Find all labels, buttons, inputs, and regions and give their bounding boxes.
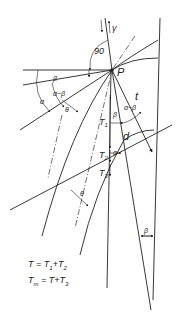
vertical-drop-line [107, 70, 111, 288]
label-alpha: α [40, 98, 45, 105]
right-boundary-line [153, 18, 160, 300]
label-beta-top: β [52, 75, 57, 83]
formula-tm: Tm = T+T3 [28, 274, 68, 290]
lower-oblique-line [10, 125, 172, 210]
label-alpha-minus-beta-left: α−β [53, 90, 65, 98]
formula-block: T = T1+T2 Tm = T+T3 [28, 258, 68, 290]
label-90: 90 [94, 46, 104, 56]
down-arrow [101, 20, 102, 32]
formula-t: T = T1+T2 [28, 258, 68, 274]
alpha-minus-beta-mid-arc [123, 112, 141, 123]
label-beta-mid: β [112, 111, 117, 119]
point-p [110, 68, 114, 72]
label-gamma: γ [112, 23, 117, 33]
t-line [112, 70, 152, 152]
label-theta-upper: θ [65, 106, 69, 113]
label-t2: T2 [99, 150, 109, 161]
normal-line [105, 18, 112, 70]
label-t1: T1 [99, 117, 108, 128]
label-t: t [135, 90, 139, 102]
label-d: d [123, 130, 130, 142]
label-alpha-minus-beta-mid: α−β [124, 104, 136, 112]
label-p: P [117, 66, 125, 78]
label-t3: T3 [99, 168, 109, 179]
label-beta-bottom: β [143, 227, 148, 235]
dashdot-left [48, 115, 62, 178]
dashdot-axis-lower [75, 70, 112, 228]
label-theta-lower: θ [80, 190, 84, 197]
up-arrow [109, 21, 110, 33]
dashdot-axis-upper [112, 36, 135, 70]
alpha-arc [37, 70, 51, 112]
